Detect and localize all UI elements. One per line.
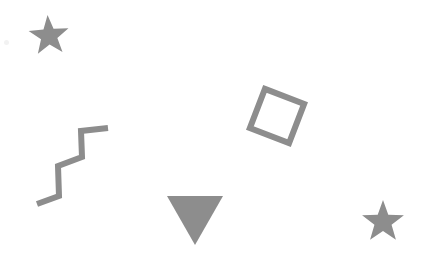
shapes-canvas <box>0 0 445 260</box>
shape-canvas-svg <box>0 0 445 260</box>
